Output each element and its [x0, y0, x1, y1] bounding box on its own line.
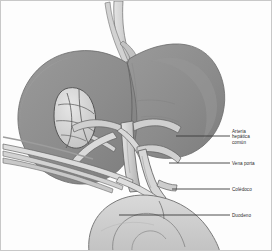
anatomy-figure: Arteria hepática común Vena porta Colédo…	[0, 0, 272, 251]
label-duodeno: Duodeno	[232, 213, 272, 218]
label-vena-porta: Vena porta	[232, 161, 272, 166]
label-coledoco: Colédoco	[232, 187, 272, 192]
label-arteria-hepatica-comun: Arteria hepática común	[232, 129, 272, 145]
